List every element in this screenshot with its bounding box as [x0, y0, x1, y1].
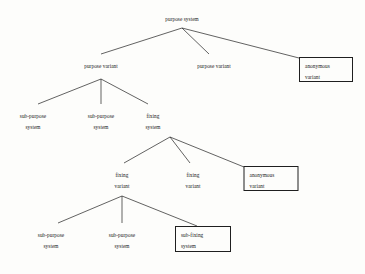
tree-node-root: purpose system	[150, 14, 214, 25]
node-label-line: variant	[305, 72, 352, 83]
node-label-line: purpose variant	[68, 61, 134, 72]
node-label-line: system	[95, 241, 149, 252]
tree-edge	[38, 79, 101, 104]
node-label-line: sub-purpose	[24, 230, 78, 241]
tree-node-sub-purpose-system-3: sub-purposesystem	[24, 230, 78, 251]
node-label-line: anonymous	[250, 170, 298, 181]
tree-edge	[58, 196, 122, 223]
node-label-line: system	[181, 241, 230, 252]
node-label-line: system	[6, 122, 60, 133]
tree-edge	[124, 137, 170, 163]
tree-edge	[182, 28, 209, 54]
tree-node-fixing-variant-1: fixingvariant	[104, 170, 140, 191]
node-label-line: variant	[175, 181, 211, 192]
tree-edge	[101, 28, 182, 54]
tree-node-sub-purpose-system-1: sub-purposesystem	[6, 111, 60, 132]
node-label-line: sub-purpose	[74, 111, 128, 122]
node-label-line: variant	[250, 181, 298, 192]
node-label-line: variant	[104, 181, 140, 192]
tree-edge	[101, 79, 148, 104]
tree-node-anonymous-variant-2: anonymousvariant	[244, 166, 299, 191]
node-label-line: sub-purpose	[95, 230, 149, 241]
tree-node-sub-purpose-system-4: sub-purposesystem	[95, 230, 149, 251]
tree-node-purpose-variant-2: purpose variant	[181, 61, 247, 72]
tree-node-sub-purpose-system-2: sub-purposesystem	[74, 111, 128, 132]
node-label-line: system	[24, 241, 78, 252]
tree-diagram: purpose systempurpose variantpurpose var…	[0, 0, 365, 274]
tree-node-anonymous-variant-1: anonymousvariant	[299, 57, 353, 82]
node-label-line: anonymous	[305, 61, 352, 72]
node-label-line: sub-purpose	[6, 111, 60, 122]
node-label-line: sub-fixing	[181, 230, 230, 241]
node-label-line: purpose system	[150, 14, 214, 25]
node-label-line: system	[135, 122, 171, 133]
node-label-line: fixing	[175, 170, 211, 181]
tree-edge	[122, 196, 197, 226]
node-label-line: purpose variant	[181, 61, 247, 72]
node-label-line: fixing	[104, 170, 140, 181]
tree-node-fixing-system: fixingsystem	[135, 111, 171, 132]
tree-node-fixing-variant-2: fixingvariant	[175, 170, 211, 191]
node-label-line: system	[74, 122, 128, 133]
node-label-line: fixing	[135, 111, 171, 122]
tree-node-sub-fixing-system: sub-fixingsystem	[175, 226, 231, 252]
tree-node-purpose-variant-1: purpose variant	[68, 61, 134, 72]
tree-edge	[182, 28, 299, 58]
